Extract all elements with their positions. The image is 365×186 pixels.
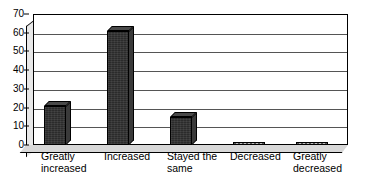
bar[interactable] (170, 117, 192, 145)
bar[interactable] (296, 142, 318, 145)
bar-side-face (192, 112, 197, 145)
y-axis-tick-label: 20 (4, 103, 24, 113)
y-axis-tick-mark (24, 88, 29, 89)
x-axis-category-label: Decreased (230, 150, 299, 162)
bar-side-face (129, 26, 134, 145)
y-axis-tick-label: 0 (4, 140, 24, 150)
y-axis-tick-label: 60 (4, 28, 24, 38)
x-axis: Greatly increasedIncreasedStayed the sam… (26, 150, 356, 186)
y-axis-tick-mark (24, 145, 29, 146)
x-axis-category-label: Stayed the same (167, 150, 236, 174)
y-axis: 010203040506070 (0, 0, 24, 186)
bar-front-face (44, 106, 66, 145)
bar[interactable] (44, 106, 66, 145)
bar-zero-base (296, 142, 328, 145)
y-axis-tick-label: 40 (4, 65, 24, 75)
x-axis-category-label: Greatly increased (41, 150, 110, 174)
y-axis-tick-label: 50 (4, 46, 24, 56)
y-axis-tick-mark (24, 51, 29, 52)
x-axis-category-label: Increased (104, 150, 173, 162)
bar-front-face (170, 117, 192, 145)
bar-zero-base (233, 142, 265, 145)
bar-chart: 010203040506070 Greatly increasedIncreas… (0, 0, 365, 186)
bar-front-face (107, 31, 129, 145)
y-axis-tick-mark (24, 70, 29, 71)
y-axis-tick-label: 30 (4, 84, 24, 94)
bar[interactable] (107, 31, 129, 145)
y-axis-tick-mark (24, 126, 29, 127)
bar[interactable] (233, 142, 255, 145)
y-axis-tick-label: 10 (4, 121, 24, 131)
bar-side-face (66, 101, 71, 145)
y-axis-tick-label: 70 (4, 9, 24, 19)
y-axis-tick-mark (24, 14, 29, 15)
y-axis-tick-mark (24, 107, 29, 108)
x-axis-category-label: Greatly decreased (293, 150, 362, 174)
y-axis-tick-mark (24, 32, 29, 33)
bars-layer (33, 14, 348, 145)
